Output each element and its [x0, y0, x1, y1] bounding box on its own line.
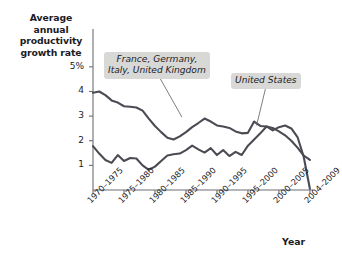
y-tick-label-3: 4: [54, 85, 84, 95]
y-axis-title-line-2: productivity: [12, 35, 90, 47]
y-tick-label-1: 2: [54, 135, 84, 145]
series-line-0: [93, 91, 310, 159]
x-axis-title: Year: [282, 236, 305, 247]
y-axis-title: Average annual productivity growth rate: [12, 12, 90, 58]
y-axis-title-line-3: growth rate: [12, 47, 90, 59]
europe-leader: [157, 74, 181, 117]
y-tick-label-4: 5%: [54, 61, 84, 71]
y-axis-title-line-1: Average annual: [12, 12, 90, 35]
y-tick-label-2: 3: [54, 110, 84, 120]
series-label-europe: France, Germany, Italy, United Kingdom: [104, 52, 210, 79]
series-label-united-states: United States: [231, 73, 301, 89]
y-tick-label-0: 1: [54, 159, 84, 169]
